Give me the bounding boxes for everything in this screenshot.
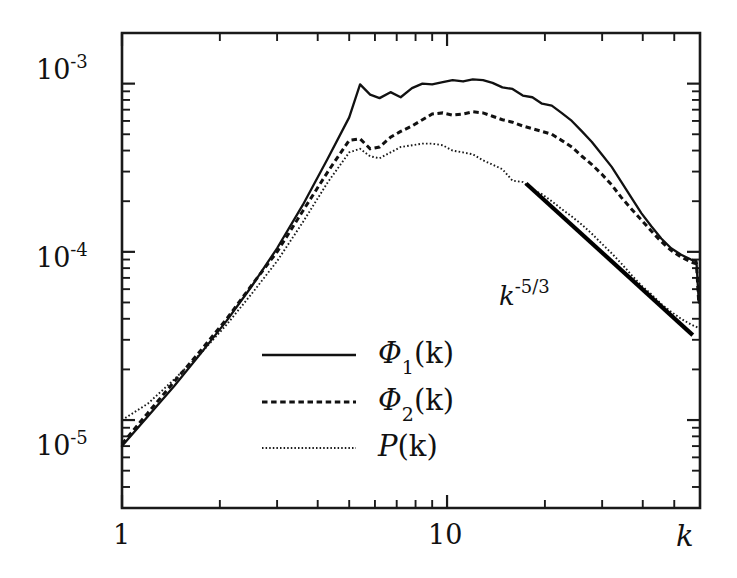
y-tick-label-1e-5: 10-5 <box>36 430 88 459</box>
legend-arg: (k) <box>414 383 454 417</box>
y-tick-label-1e-4: 10-4 <box>36 242 88 271</box>
legend-symbol: Φ <box>378 383 402 417</box>
reference-slope-line <box>526 183 693 335</box>
x-axis-label: k <box>676 522 694 551</box>
figure-container: 10-3 10-4 10-5 1 10 k k-5/3 Φ1(k) Φ2(k) … <box>0 0 737 578</box>
legend-arg: (k) <box>414 336 454 370</box>
legend-sample-lines <box>262 355 356 448</box>
y-tick-exponent: -3 <box>70 51 87 72</box>
spectrum-chart <box>0 0 737 578</box>
legend-label-phi1: Φ1(k) <box>378 339 454 373</box>
slope-reference-line <box>526 183 693 335</box>
series-curve-P <box>122 144 698 420</box>
x-tick-label-10: 10 <box>428 521 462 548</box>
legend-label-p: P(k) <box>378 432 438 461</box>
slope-exponent: -5/3 <box>515 276 550 297</box>
legend-subscript: 2 <box>402 403 414 425</box>
legend-arg: (k) <box>398 429 438 463</box>
y-tick-mantissa: 10 <box>36 54 70 85</box>
y-tick-exponent: -4 <box>70 239 87 260</box>
slope-annotation-label: k-5/3 <box>499 280 550 309</box>
y-tick-mantissa: 10 <box>36 430 70 461</box>
y-tick-exponent: -5 <box>70 427 87 448</box>
legend-symbol: Φ <box>378 336 402 370</box>
y-tick-label-1e-3: 10-3 <box>36 54 88 83</box>
legend-subscript: 1 <box>402 356 414 378</box>
legend-label-phi2: Φ2(k) <box>378 386 454 420</box>
slope-base: k <box>499 281 515 311</box>
y-tick-mantissa: 10 <box>36 242 70 273</box>
x-tick-label-1: 1 <box>113 521 130 548</box>
legend-symbol: P <box>378 429 398 463</box>
